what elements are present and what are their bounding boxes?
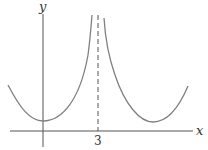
x-tick-label-3: 3 xyxy=(94,134,102,148)
x-axis-label: x xyxy=(196,123,204,138)
y-axis-label: y xyxy=(38,0,47,14)
curve-left-branch xyxy=(8,15,92,121)
function-graph: x y 3 xyxy=(0,0,208,150)
curve-right-branch xyxy=(104,18,188,122)
